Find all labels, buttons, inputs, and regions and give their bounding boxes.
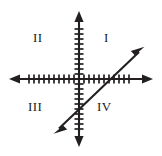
y-axis-top-arrowhead	[74, 11, 83, 22]
quadrant-label-ii: II	[33, 31, 42, 44]
plotted-line	[54, 47, 145, 134]
plotted-line-segment	[59, 52, 139, 129]
quadrant-label-iv: IV	[97, 100, 112, 113]
quadrant-label-iii: III	[28, 100, 42, 113]
coordinate-plane-svg	[0, 0, 162, 156]
y-axis-bottom-arrowhead	[74, 136, 83, 147]
coordinate-plane-figure: I II III IV	[0, 0, 162, 156]
x-axis-left-arrowhead	[9, 74, 20, 83]
x-axis	[9, 74, 153, 83]
quadrant-label-i: I	[104, 31, 109, 44]
x-axis-right-arrowhead	[142, 74, 153, 83]
